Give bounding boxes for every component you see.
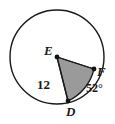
point-label-f: F xyxy=(97,65,106,78)
point-label-e: E xyxy=(44,44,53,57)
geometry-figure: E F D 12 52° xyxy=(0,0,115,124)
point-label-d: D xyxy=(66,105,75,118)
geometry-drawing-canvas xyxy=(0,0,115,124)
point-marker-f xyxy=(92,67,97,72)
arc-angle-label: 52° xyxy=(86,82,103,94)
radius-measure-label: 12 xyxy=(37,78,50,91)
point-marker-d xyxy=(66,99,71,104)
point-marker-e xyxy=(55,55,60,60)
